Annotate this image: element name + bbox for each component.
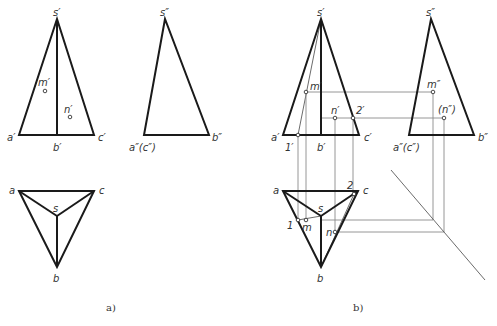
- point-1-front: [296, 133, 300, 137]
- panel-b-side-view: s″ a″(c″) b″ m″ (n″): [393, 7, 488, 153]
- label-a-front: a′: [271, 132, 280, 143]
- label-1-top: 1: [287, 220, 293, 231]
- side-triangle: [144, 19, 209, 135]
- line-s1-top: [298, 216, 321, 220]
- point-m-front: [43, 89, 47, 93]
- point-n-side: [442, 116, 446, 120]
- panel-a: s′ a′ c′ b′ m′ n′ s″ a″(c″) b″ a c s b a…: [7, 7, 222, 313]
- label-b-top: b: [53, 273, 59, 284]
- label-s-front: s′: [53, 7, 61, 18]
- label-b-side: b″: [478, 132, 488, 143]
- point-1-top: [296, 218, 300, 222]
- label-b-front: b′: [53, 142, 62, 153]
- panel-b: s′ a′ c′ b′ m′ n′ 2′ 1′ s″ a″(c″) b″ m″ …: [271, 7, 488, 313]
- label-ac-side: a″(c″): [129, 142, 156, 153]
- panel-a-side-view: s″ a″(c″) b″: [129, 7, 222, 153]
- label-b-front: b′: [317, 142, 326, 153]
- label-b-top: b: [317, 273, 323, 284]
- point-n-front: [68, 115, 72, 119]
- label-a-top: a: [273, 185, 279, 196]
- label-c-front: c′: [364, 132, 372, 143]
- point-n-top: [333, 230, 337, 234]
- label-n-side: (n″): [438, 104, 456, 115]
- label-b-side: b″: [212, 132, 222, 143]
- panel-a-front-view: s′ a′ c′ b′ m′ n′: [7, 7, 106, 153]
- label-n-top: n: [326, 227, 332, 238]
- label-c-top: c: [363, 185, 369, 196]
- miter-line-45: [391, 170, 485, 280]
- point-m-front: [304, 90, 308, 94]
- label-s-top: s: [318, 203, 323, 214]
- point-m-side: [431, 90, 435, 94]
- caption-b: b): [353, 302, 363, 313]
- label-s-top: s: [53, 203, 58, 214]
- panel-b-front-view: s′ a′ c′ b′ m′ n′ 2′ 1′: [271, 7, 372, 153]
- construction-lines: [298, 19, 485, 280]
- label-s-side: s″: [426, 7, 435, 18]
- label-c-top: c: [99, 185, 105, 196]
- label-s-front: s′: [317, 7, 325, 18]
- label-m-side: m″: [427, 79, 441, 90]
- label-a-front: a′: [7, 132, 16, 143]
- label-m-front: m′: [310, 81, 323, 92]
- label-n-front: n′: [331, 105, 340, 116]
- label-s-side: s″: [160, 7, 169, 18]
- label-a-top: a: [9, 185, 15, 196]
- point-2-top: [352, 192, 356, 196]
- label-n-front: n′: [64, 104, 73, 115]
- label-ac-side: a″(c″): [393, 142, 420, 153]
- label-m-front: m′: [38, 77, 51, 88]
- point-2-front: [351, 116, 355, 120]
- label-2-top: 2: [347, 180, 353, 191]
- label-m-top: m: [302, 222, 312, 233]
- projection-diagram: s′ a′ c′ b′ m′ n′ s″ a″(c″) b″ a c s b a…: [0, 0, 497, 326]
- point-n-front: [333, 116, 337, 120]
- label-2-front: 2′: [356, 105, 365, 116]
- caption-a: a): [106, 302, 116, 313]
- label-1-front: 1′: [285, 142, 294, 153]
- label-c-front: c′: [98, 132, 106, 143]
- panel-a-top-view: a c s b: [9, 185, 105, 284]
